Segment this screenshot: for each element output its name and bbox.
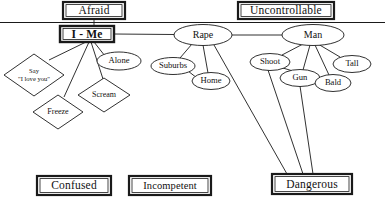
node-home[interactable] [192,73,230,90]
node-gun[interactable] [280,70,320,87]
edge-gun-dangerous [300,86,313,174]
edge-man-gun [303,45,310,70]
node-scream[interactable] [78,78,130,112]
edge-man-shoot [282,44,303,55]
diagram-canvas [0,0,385,203]
edge-man-tall [318,44,340,57]
node-freeze[interactable] [33,95,83,129]
edge-i-me-freeze [64,42,89,97]
edge-i-me-rape [114,34,174,35]
node-shoot[interactable] [250,54,290,71]
node-tall[interactable] [333,56,371,73]
edge-i-me-say [49,42,86,60]
edge-rape-home [203,45,208,73]
concept-map-diagram: Afraid Uncontrollable I - Me Confused In… [0,0,385,203]
node-suburbs[interactable] [151,58,195,75]
edge-rape-suburbs [180,44,192,58]
edge-i-me-alone [94,42,105,56]
node-rape[interactable] [174,25,232,46]
node-man[interactable] [282,25,344,46]
node-say-i-love-you[interactable] [4,54,64,96]
node-alone[interactable] [97,52,141,70]
node-bald[interactable] [315,75,351,92]
